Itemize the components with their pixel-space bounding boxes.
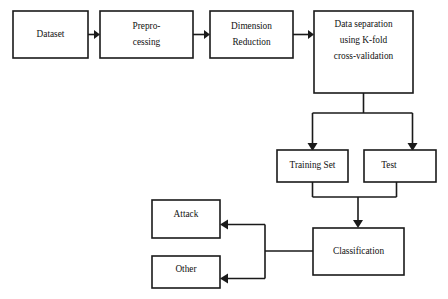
data-separation-label-line-1: Data separation [334, 19, 392, 29]
dataset-box[interactable]: Dataset [13, 11, 88, 58]
preprocessing-label-line-1: Prepro- [133, 21, 161, 31]
test-box[interactable]: Test [364, 150, 436, 182]
flowchart-canvas: Dataset Prepro- cessing Dimension Reduct… [0, 0, 448, 299]
edge-preprocessing-to-dimension-reduction [193, 30, 210, 39]
classification-box[interactable]: Classification [313, 228, 404, 275]
edge-dimension-reduction-to-data-separation [293, 30, 314, 39]
edge-classification-to-other [220, 274, 265, 284]
edge-training-and-test-to-classification [313, 182, 397, 228]
edge-dataset-to-preprocessing [88, 30, 100, 39]
dimension-reduction-box[interactable]: Dimension Reduction [210, 11, 293, 58]
edge-data-separation-to-training-set [308, 93, 413, 151]
edge-data-separation-to-test [408, 113, 418, 151]
other-box[interactable]: Other [152, 256, 220, 288]
preprocessing-label-line-2: cessing [133, 37, 161, 47]
preprocessing-box[interactable]: Prepro- cessing [100, 11, 193, 58]
data-separation-box[interactable]: Data separation using K-fold cross-valid… [314, 11, 413, 93]
other-label: Other [175, 264, 197, 274]
attack-label: Attack [174, 209, 199, 219]
classification-label: Classification [333, 246, 384, 256]
dimension-reduction-label-line-1: Dimension [231, 21, 272, 31]
data-separation-label-line-2: using K-fold [340, 35, 388, 45]
data-separation-label-line-3: cross-validation [334, 51, 394, 61]
training-set-box[interactable]: Training Set [277, 150, 348, 182]
training-set-label: Training Set [290, 160, 336, 170]
dimension-reduction-label-line-2: Reduction [232, 37, 271, 47]
dataset-label: Dataset [37, 29, 65, 39]
test-label: Test [381, 160, 397, 170]
flowchart-diagram: Dataset Prepro- cessing Dimension Reduct… [0, 0, 448, 299]
edge-classification-to-attack [220, 220, 313, 279]
attack-box[interactable]: Attack [152, 200, 220, 238]
